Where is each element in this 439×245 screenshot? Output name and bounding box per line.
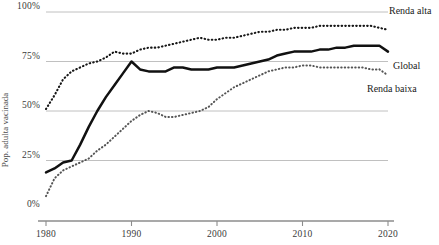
y-tick-label-75: 75% (22, 51, 40, 61)
x-axis-tick-labels: 19801990200020102020 (36, 229, 398, 239)
series-label-global: Global (393, 60, 420, 71)
series-label-renda-alta: Renda alta (389, 5, 432, 16)
x-tick-label-1990: 1990 (121, 229, 141, 239)
y-axis-title: Pop. adulta vacinada (0, 93, 10, 168)
series-line-renda-baixa (46, 65, 388, 196)
x-tick-label-2020: 2020 (378, 229, 398, 239)
y-tick-label-0: 0% (27, 199, 40, 209)
series-labels: Renda altaGlobalRenda baixa (367, 5, 432, 94)
x-tick-label-2010: 2010 (292, 229, 312, 239)
y-tick-label-100: 100% (17, 1, 40, 11)
vaccination-coverage-chart: 0%25%50%75%100% 19801990200020102020 Ren… (0, 0, 439, 245)
y-axis-tick-labels: 0%25%50%75%100% (17, 1, 40, 209)
series-label-renda-baixa: Renda baixa (367, 83, 417, 94)
x-tick-label-1980: 1980 (36, 229, 56, 239)
chart-canvas: 0%25%50%75%100% 19801990200020102020 Ren… (0, 0, 439, 245)
x-axis (38, 221, 394, 226)
series-line-global (46, 46, 388, 173)
y-axis-title-label: Pop. adulta vacinada (0, 93, 10, 168)
gridlines (46, 12, 388, 161)
y-tick-label-50: 50% (22, 100, 40, 110)
y-tick-label-25: 25% (22, 150, 40, 160)
x-tick-label-2000: 2000 (207, 229, 227, 239)
